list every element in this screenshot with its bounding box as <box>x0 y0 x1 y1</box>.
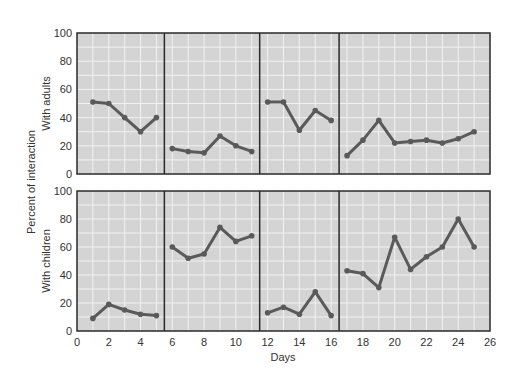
data-point <box>249 149 255 155</box>
data-point <box>249 233 255 239</box>
data-point <box>344 268 350 274</box>
data-point <box>328 118 334 124</box>
data-point <box>408 139 414 145</box>
x-tick-label: 12 <box>261 336 273 348</box>
x-tick-label: 22 <box>420 336 432 348</box>
data-point <box>185 149 191 155</box>
data-point <box>138 311 144 317</box>
data-point <box>265 310 271 316</box>
data-point <box>344 153 350 159</box>
data-point <box>233 239 239 245</box>
data-point <box>90 99 96 105</box>
data-point <box>471 244 477 250</box>
panel-with-adults: 020406080100With adults <box>40 27 490 180</box>
data-point <box>233 143 239 149</box>
y-tick-label: 60 <box>60 83 72 95</box>
panel-label: With adults <box>40 76 52 131</box>
panel-label: With children <box>40 229 52 293</box>
x-axis: 02468101214161820222426 <box>74 336 496 348</box>
data-point <box>201 150 207 156</box>
data-point <box>408 267 414 273</box>
data-point <box>312 289 318 295</box>
x-tick-label: 16 <box>325 336 337 348</box>
x-tick-label: 26 <box>484 336 496 348</box>
data-point <box>106 101 112 107</box>
y-tick-label: 40 <box>60 269 72 281</box>
data-point <box>455 216 461 222</box>
panel-with-children: 020406080100With children <box>40 185 490 337</box>
data-point <box>328 313 334 319</box>
data-point <box>154 313 160 319</box>
data-point <box>106 302 112 308</box>
x-tick-label: 0 <box>74 336 80 348</box>
data-point <box>471 129 477 135</box>
y-tick-label: 80 <box>60 55 72 67</box>
data-point <box>122 115 128 121</box>
data-point <box>440 244 446 250</box>
y-tick-label: 40 <box>60 112 72 124</box>
data-point <box>392 140 398 146</box>
data-point <box>424 254 430 260</box>
data-point <box>138 129 144 135</box>
x-tick-label: 24 <box>452 336 464 348</box>
data-point <box>90 316 96 322</box>
y-tick-label: 20 <box>60 297 72 309</box>
data-point <box>217 225 223 231</box>
x-axis-label: Days <box>270 351 296 363</box>
data-point <box>201 251 207 257</box>
x-tick-label: 14 <box>293 336 305 348</box>
data-point <box>281 304 287 310</box>
data-point <box>312 108 318 114</box>
data-point <box>170 146 176 152</box>
data-point <box>360 271 366 277</box>
x-tick-label: 4 <box>137 336 143 348</box>
data-point <box>154 115 160 121</box>
data-point <box>297 127 303 133</box>
y-tick-label: 80 <box>60 213 72 225</box>
y-axis-label: Percent of interaction <box>25 130 37 234</box>
data-point <box>360 137 366 143</box>
chart: 020406080100With adults020406080100With … <box>0 0 520 375</box>
data-point <box>265 99 271 105</box>
y-tick-label: 60 <box>60 241 72 253</box>
data-point <box>424 137 430 143</box>
x-tick-label: 10 <box>230 336 242 348</box>
panels: 020406080100With adults020406080100With … <box>40 27 490 337</box>
x-tick-label: 2 <box>106 336 112 348</box>
x-tick-label: 18 <box>357 336 369 348</box>
data-point <box>392 234 398 240</box>
data-point <box>170 244 176 250</box>
data-point <box>217 133 223 139</box>
data-point <box>440 140 446 146</box>
x-tick-label: 8 <box>201 336 207 348</box>
data-point <box>455 136 461 142</box>
x-tick-label: 6 <box>169 336 175 348</box>
y-tick-label: 20 <box>60 140 72 152</box>
y-tick-label: 100 <box>54 27 72 39</box>
data-point <box>297 311 303 317</box>
data-point <box>376 118 382 124</box>
data-point <box>376 285 382 291</box>
data-point <box>281 99 287 105</box>
y-tick-label: 0 <box>66 168 72 180</box>
y-tick-label: 100 <box>54 185 72 197</box>
y-tick-label: 0 <box>66 325 72 337</box>
data-point <box>122 307 128 313</box>
x-tick-label: 20 <box>389 336 401 348</box>
data-point <box>185 255 191 261</box>
